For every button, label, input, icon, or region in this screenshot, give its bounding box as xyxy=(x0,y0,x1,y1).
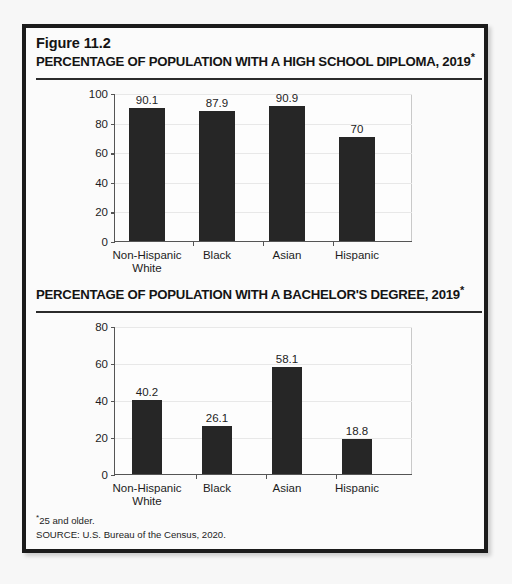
chart-2-title-footnote-marker: * xyxy=(460,284,464,296)
chart-high-school-diploma: 02040608010090.1Non-HispanicWhite87.9Bla… xyxy=(36,86,482,286)
ytick-label: 0 xyxy=(102,236,108,248)
xcat-line: White xyxy=(112,495,181,508)
title-rule-1 xyxy=(36,78,482,80)
xtick-mark xyxy=(196,474,197,479)
xcat-line: Hispanic xyxy=(335,482,379,495)
xtick-mark xyxy=(266,474,267,479)
bar: 58.1 xyxy=(272,367,302,474)
bar: 90.1 xyxy=(129,108,165,241)
ytick-label: 20 xyxy=(95,206,108,218)
chart-2-plot: 02040608040.2Non-HispanicWhite26.1Black5… xyxy=(114,327,412,475)
ytick-mark xyxy=(111,124,115,125)
bar-value-label: 26.1 xyxy=(206,412,228,424)
xcat-line: Black xyxy=(203,482,231,495)
x-category-label: Non-HispanicWhite xyxy=(112,482,181,508)
footnote-source: SOURCE: U.S. Bureau of the Census, 2020. xyxy=(36,528,226,542)
ytick-mark xyxy=(111,153,115,154)
chart-bachelors-degree: 02040608040.2Non-HispanicWhite26.1Black5… xyxy=(36,319,482,519)
xcat-line: Hispanic xyxy=(335,249,379,262)
chart-2-title: PERCENTAGE OF POPULATION WITH A BACHELOR… xyxy=(36,287,464,302)
bar-value-label: 90.9 xyxy=(276,92,298,104)
x-category-label: Asian xyxy=(273,249,302,262)
ytick-label: 20 xyxy=(95,432,108,444)
x-category-label: Hispanic xyxy=(335,482,379,495)
bar-value-label: 87.9 xyxy=(206,97,228,109)
xtick-mark xyxy=(193,241,194,246)
bar: 18.8 xyxy=(342,439,372,474)
figure-number: Figure 11.2 xyxy=(36,35,111,51)
ytick-mark xyxy=(111,242,115,243)
chart-1-axes: 02040608010090.1Non-HispanicWhite87.9Bla… xyxy=(114,94,412,242)
footnote-age-text: 25 and older. xyxy=(39,515,94,526)
bar-value-label: 58.1 xyxy=(276,353,298,365)
bar-value-label: 70 xyxy=(351,123,364,135)
title-rule-2 xyxy=(36,311,482,313)
ytick-label: 100 xyxy=(89,88,108,100)
chart-1-gridline xyxy=(115,94,412,95)
chart-1-title-text: PERCENTAGE OF POPULATION WITH A HIGH SCH… xyxy=(36,54,471,69)
chart-1-plot: 02040608010090.1Non-HispanicWhite87.9Bla… xyxy=(114,94,412,242)
bar: 70 xyxy=(339,137,375,241)
bar-value-label: 18.8 xyxy=(346,425,368,437)
footnotes: *25 and older. SOURCE: U.S. Bureau of th… xyxy=(36,514,226,541)
bar: 90.9 xyxy=(269,106,305,241)
ytick-label: 80 xyxy=(95,321,108,333)
bar: 87.9 xyxy=(199,111,235,241)
chart-1-right-spine xyxy=(411,94,412,241)
xtick-mark xyxy=(336,474,337,479)
ytick-mark xyxy=(111,475,115,476)
chart-2-axes: 02040608040.2Non-HispanicWhite26.1Black5… xyxy=(114,327,412,475)
ytick-label: 60 xyxy=(95,147,108,159)
ytick-mark xyxy=(111,327,115,328)
figure-frame: Figure 11.2 PERCENTAGE OF POPULATION WIT… xyxy=(22,24,488,553)
x-category-label: Black xyxy=(203,249,231,262)
xcat-line: Non-Hispanic xyxy=(112,249,181,262)
ytick-mark xyxy=(111,364,115,365)
ytick-mark xyxy=(111,94,115,95)
bar-value-label: 90.1 xyxy=(136,94,158,106)
xtick-mark xyxy=(263,241,264,246)
xcat-line: Black xyxy=(203,249,231,262)
chart-2-gridline xyxy=(115,327,412,328)
x-category-label: Black xyxy=(203,482,231,495)
x-category-label: Asian xyxy=(273,482,302,495)
ytick-label: 60 xyxy=(95,358,108,370)
bar: 26.1 xyxy=(202,426,232,474)
xcat-line: White xyxy=(112,262,181,275)
xcat-line: Asian xyxy=(273,249,302,262)
chart-1-title: PERCENTAGE OF POPULATION WITH A HIGH SCH… xyxy=(36,54,475,69)
chart-2-gridline xyxy=(115,364,412,365)
ytick-mark xyxy=(111,401,115,402)
bar-value-label: 40.2 xyxy=(136,386,158,398)
ytick-mark xyxy=(111,183,115,184)
x-category-label: Hispanic xyxy=(335,249,379,262)
xcat-line: Asian xyxy=(273,482,302,495)
ytick-mark xyxy=(111,438,115,439)
ytick-mark xyxy=(111,212,115,213)
chart-2-title-text: PERCENTAGE OF POPULATION WITH A BACHELOR… xyxy=(36,287,460,302)
ytick-label: 80 xyxy=(95,118,108,130)
x-category-label: Non-HispanicWhite xyxy=(112,249,181,275)
ytick-label: 40 xyxy=(95,395,108,407)
ytick-label: 0 xyxy=(102,469,108,481)
chart-1-title-footnote-marker: * xyxy=(471,51,475,63)
xtick-mark xyxy=(333,241,334,246)
xcat-line: Non-Hispanic xyxy=(112,482,181,495)
ytick-label: 40 xyxy=(95,177,108,189)
footnote-age-note: *25 and older. xyxy=(36,514,226,528)
bar: 40.2 xyxy=(132,400,162,474)
